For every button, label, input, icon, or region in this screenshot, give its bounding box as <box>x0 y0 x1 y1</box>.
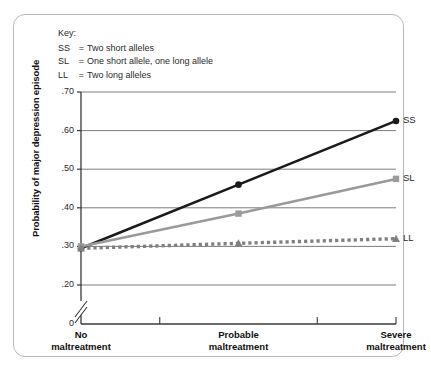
y-tick-label: .70 <box>48 86 74 96</box>
y-tick-label: .40 <box>48 202 74 212</box>
data-point-ll-1 <box>235 239 243 246</box>
series-label-ss: SS <box>403 114 416 125</box>
data-point-sl-2 <box>393 176 399 182</box>
y-origin-label: 0 <box>48 318 74 328</box>
x-tick-label-2: Severemaltreatment <box>341 329 431 352</box>
y-tick-label: .50 <box>48 163 74 173</box>
y-axis-title: Probability of major depression episode <box>30 49 41 249</box>
x-tick-label-line: Severe <box>341 329 431 341</box>
x-tick-label-0: Nomaltreatment <box>26 329 136 352</box>
figure-card: Key: SS=Two short alleles SL=One short a… <box>13 14 404 357</box>
x-tick-label-line: Probable <box>184 329 294 341</box>
data-point-sl-1 <box>235 210 241 216</box>
x-tick-label-line: maltreatment <box>26 341 136 353</box>
x-tick-label-line: maltreatment <box>184 341 294 353</box>
series-label-sl: SL <box>403 172 415 183</box>
chart-plot-area: Probability of major depression episode … <box>14 15 405 358</box>
data-point-ss-1 <box>235 181 242 188</box>
chart-svg <box>14 15 405 358</box>
y-tick-label: .20 <box>48 279 74 289</box>
x-tick-label-line: maltreatment <box>341 341 431 353</box>
x-tick-label-line: No <box>26 329 136 341</box>
y-tick-label: .60 <box>48 125 74 135</box>
series-label-ll: LL <box>403 232 414 243</box>
y-tick-label: .30 <box>48 240 74 250</box>
x-tick-label-1: Probablemaltreatment <box>184 329 294 352</box>
data-point-ss-2 <box>393 118 400 125</box>
